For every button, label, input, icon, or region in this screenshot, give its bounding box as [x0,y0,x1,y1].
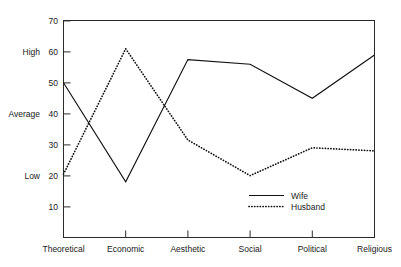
value-profile-line-chart: 10 20 30 40 50 60 70 High Average Low Th… [0,0,401,267]
x-label-theoretical: Theoretical [42,244,84,254]
x-label-economic: Economic [107,244,145,254]
legend-label-wife: Wife [291,191,308,201]
band-label-high: High [23,47,41,57]
y-label-70: 70 [49,16,59,26]
y-label-10: 10 [49,202,59,212]
plot-frame [64,21,375,238]
y-label-20: 20 [49,171,59,181]
y-label-40: 40 [49,109,59,119]
band-label-low: Low [24,171,40,181]
x-label-political: Political [298,244,327,254]
x-axis-ticks [64,231,375,238]
x-axis-labels: Theoretical Economic Aesthetic Social Po… [42,244,392,254]
chart-legend: Wife Husband [249,191,325,212]
y-axis-labels: 10 20 30 40 50 60 70 [49,16,59,212]
x-label-religious: Religious [357,244,392,254]
series-line-wife [64,55,375,182]
y-label-50: 50 [49,78,59,88]
band-label-average: Average [8,109,40,119]
legend-label-husband: Husband [291,202,325,212]
x-label-social: Social [239,244,262,254]
chart-canvas: 10 20 30 40 50 60 70 High Average Low Th… [0,0,401,267]
y-axis-ticks [64,21,71,207]
y-label-30: 30 [49,140,59,150]
x-label-aesthetic: Aesthetic [170,244,206,254]
y-label-60: 60 [49,47,59,57]
y-axis-band-labels: High Average Low [8,47,40,181]
